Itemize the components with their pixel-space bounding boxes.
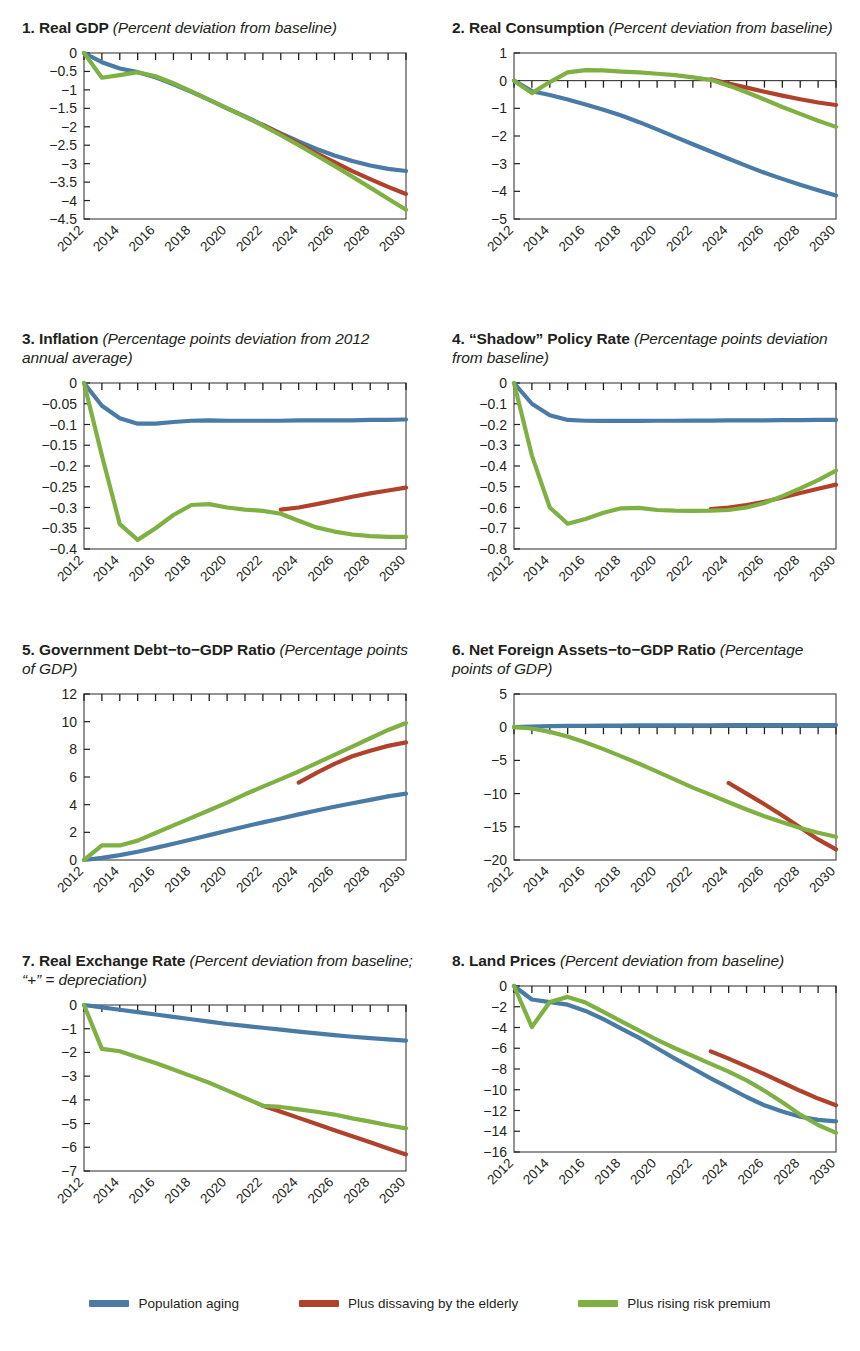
panel-4-title: 4. “Shadow” Policy Rate (Percentage poin… <box>452 329 844 367</box>
panel-2-title-main: Real Consumption <box>469 19 609 36</box>
panel-2-ytick-label: −1 <box>491 100 507 116</box>
panel-row-1: 1. Real GDP (Percent deviation from base… <box>0 18 860 329</box>
panel-3-ytick-label: −0.25 <box>42 479 78 495</box>
panel-1-title-number: 1. <box>22 19 39 36</box>
panel-5-xtick-label: 2026 <box>305 864 337 896</box>
panel-4-ytick-label: −0.5 <box>479 479 507 495</box>
panel-7-xtick-label: 2014 <box>90 1174 122 1206</box>
panel-6-xtick-label: 2016 <box>556 864 588 896</box>
panel-6-series <box>729 783 836 849</box>
figure-bottom-cut-text <box>0 1336 860 1351</box>
panel-4-title-main: “Shadow” Policy Rate <box>469 330 634 347</box>
panel-7-xtick-label: 2022 <box>233 1175 265 1207</box>
panel-7-title: 7. Real Exchange Rate (Percent deviation… <box>22 951 414 989</box>
panel-5-ytick-label: 8 <box>69 741 77 757</box>
legend-item-2: Plus dissaving by the elderly <box>299 1296 518 1311</box>
panel-1-axes-frame <box>84 53 406 219</box>
panel-7-ytick-label: −1 <box>61 1021 77 1037</box>
panel-2-xtick-label: 2022 <box>663 223 695 255</box>
panel-3-title-main: Inflation <box>39 330 103 347</box>
panel-4-ytick-label: −0.6 <box>479 500 507 516</box>
panel-row-3: 5. Government Debt−to−GDP Ratio (Percent… <box>0 640 860 951</box>
panel-8-title-number: 8. <box>452 952 469 969</box>
panel-7-xtick-label: 2020 <box>197 1175 229 1207</box>
panel-6: 6. Net Foreign Assets−to−GDP Ratio (Perc… <box>430 640 860 951</box>
panel-4-xtick-label: 2030 <box>806 553 838 585</box>
panel-8-axes-frame <box>514 986 836 1152</box>
panel-5-xtick-label: 2024 <box>269 863 301 895</box>
panel-6-ytick-label: 0 <box>499 719 507 735</box>
panel-7-ytick-label: 0 <box>69 997 77 1013</box>
panel-2-ytick-label: −4 <box>491 183 507 199</box>
panel-3-xtick-label: 2030 <box>376 553 408 585</box>
panel-4-ytick-label: −0.7 <box>479 520 507 536</box>
panel-4-xtick-label: 2012 <box>484 553 516 585</box>
panel-4-series <box>514 383 836 524</box>
panel-5-title: 5. Government Debt−to−GDP Ratio (Percent… <box>22 640 414 678</box>
panel-5-xtick-label: 2014 <box>90 863 122 895</box>
panel-1-plot: 0−0.5−1−1.5−2−2.5−3−3.5−4−4.520122014201… <box>22 43 430 281</box>
panel-1-ytick-label: 0 <box>69 45 77 61</box>
panel-2: 2. Real Consumption (Percent deviation f… <box>430 18 860 329</box>
panel-1: 1. Real GDP (Percent deviation from base… <box>0 18 430 329</box>
panel-7-ytick-label: −6 <box>61 1139 77 1155</box>
panel-3-plot: 0−0.05−0.1−0.15−0.2−0.25−0.3−0.35−0.4201… <box>22 373 430 611</box>
panel-7-xtick-label: 2024 <box>269 1174 301 1206</box>
panel-3-ytick-label: −0.3 <box>49 500 77 516</box>
panel-1-xtick-label: 2022 <box>233 223 265 255</box>
panel-7-title-number: 7. <box>22 952 39 969</box>
panel-5-ytick-label: 6 <box>69 769 77 785</box>
panel-3-series <box>281 488 406 510</box>
panel-2-xtick-label: 2024 <box>699 222 731 254</box>
panel-7-ytick-label: −2 <box>61 1044 77 1060</box>
panel-1-xtick-label: 2016 <box>126 223 158 255</box>
panel-5-xtick-label: 2018 <box>162 864 194 896</box>
panel-4-xtick-label: 2018 <box>592 553 624 585</box>
panel-8-plot: 0−2−4−6−8−10−12−14−162012201420162018202… <box>452 976 860 1214</box>
panel-3-xtick-label: 2028 <box>340 553 372 585</box>
panel-6-xtick-label: 2020 <box>627 864 659 896</box>
legend-label-2: Plus dissaving by the elderly <box>348 1296 518 1311</box>
panel-8-ytick-label: −4 <box>491 1020 507 1036</box>
panel-8-series <box>514 986 836 1121</box>
panel-5: 5. Government Debt−to−GDP Ratio (Percent… <box>0 640 430 951</box>
panel-4-xtick-label: 2026 <box>735 553 767 585</box>
panel-8-ytick-label: −6 <box>491 1040 507 1056</box>
panel-4-series <box>711 485 836 509</box>
panel-5-title-number: 5. <box>22 641 39 658</box>
panel-6-xtick-label: 2026 <box>735 864 767 896</box>
panel-7-ytick-label: −4 <box>61 1092 77 1108</box>
panel-6-axes-frame <box>514 694 836 860</box>
panel-1-ytick-label: −1.5 <box>49 100 77 116</box>
panel-2-xtick-label: 2020 <box>627 223 659 255</box>
panel-1-xtick-label: 2020 <box>197 223 229 255</box>
panel-2-xtick-label: 2018 <box>592 223 624 255</box>
panel-3-ytick-label: 0 <box>69 375 77 391</box>
panel-6-ytick-label: −15 <box>483 819 507 835</box>
panel-7-plot: 0−1−2−3−4−5−6−72012201420162018202020222… <box>22 995 430 1233</box>
panel-1-xtick-label: 2026 <box>305 223 337 255</box>
panel-8-title: 8. Land Prices (Percent deviation from b… <box>452 951 844 970</box>
panel-4-svg: 0−0.1−0.2−0.3−0.4−0.5−0.6−0.7−0.82012201… <box>452 373 844 611</box>
panel-1-series <box>84 53 406 210</box>
panel-7-series <box>84 1005 406 1128</box>
panel-8: 8. Land Prices (Percent deviation from b… <box>430 951 860 1262</box>
panel-7-axes-frame <box>84 1005 406 1171</box>
panel-8-title-main: Land Prices <box>469 952 560 969</box>
panel-6-ytick-label: −10 <box>483 786 507 802</box>
panel-2-plot: 10−1−2−3−4−52012201420162018202020222024… <box>452 43 860 281</box>
panel-6-title: 6. Net Foreign Assets−to−GDP Ratio (Perc… <box>452 640 844 678</box>
panel-6-xtick-label: 2014 <box>520 863 552 895</box>
panel-3-svg: 0−0.05−0.1−0.15−0.2−0.25−0.3−0.35−0.4201… <box>22 373 414 611</box>
panel-1-title-units: (Percent deviation from baseline) <box>113 19 337 36</box>
legend-label-1: Population aging <box>138 1296 239 1311</box>
panel-1-title: 1. Real GDP (Percent deviation from base… <box>22 18 414 37</box>
panel-8-xtick-label: 2022 <box>663 1156 695 1188</box>
panel-6-title-number: 6. <box>452 641 469 658</box>
panel-8-ytick-label: −12 <box>483 1103 507 1119</box>
panel-2-ytick-label: 1 <box>499 45 507 61</box>
panel-8-svg: 0−2−4−6−8−10−12−14−162012201420162018202… <box>452 976 844 1214</box>
panel-4: 4. “Shadow” Policy Rate (Percentage poin… <box>430 329 860 640</box>
panel-row-4: 7. Real Exchange Rate (Percent deviation… <box>0 951 860 1262</box>
panel-2-ytick-label: 0 <box>499 73 507 89</box>
